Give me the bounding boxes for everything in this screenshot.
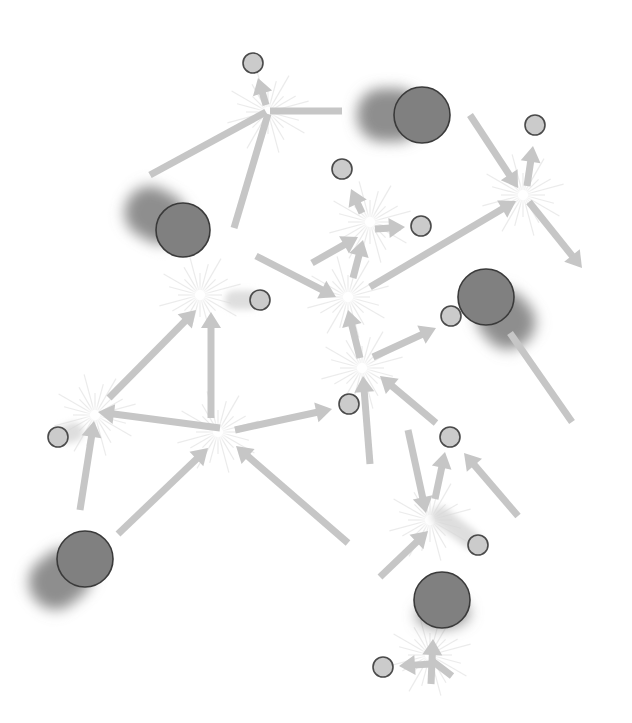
arrow-icon bbox=[470, 115, 518, 188]
vertex-bursts bbox=[54, 71, 563, 695]
arrow-icon bbox=[312, 236, 358, 263]
track-line bbox=[234, 114, 268, 228]
arrow-icon bbox=[235, 403, 332, 430]
diagram-canvas bbox=[0, 0, 632, 723]
arrow-icon bbox=[373, 326, 436, 357]
arrow-icon bbox=[109, 310, 196, 398]
track-line bbox=[150, 112, 266, 175]
arrow-icon bbox=[256, 256, 336, 299]
arrow-icon bbox=[380, 531, 428, 577]
small-particle-icon bbox=[48, 427, 68, 447]
small-particle-icon bbox=[332, 159, 352, 179]
arrow-icon bbox=[80, 421, 101, 510]
small-particle-icon bbox=[440, 427, 460, 447]
small-particle-icon bbox=[441, 306, 461, 326]
vertex-burst-icon bbox=[177, 391, 258, 472]
interaction-arrows bbox=[80, 78, 582, 684]
arrow-icon bbox=[408, 430, 432, 513]
small-particle-icon bbox=[525, 115, 545, 135]
arrow-icon bbox=[464, 453, 518, 516]
arrow-icon bbox=[432, 452, 452, 499]
small-particle-icon bbox=[250, 290, 270, 310]
large-particle-icon bbox=[156, 203, 210, 257]
arrow-icon bbox=[236, 446, 348, 543]
large-particle-icon bbox=[57, 531, 113, 587]
vertex-burst-icon bbox=[329, 181, 410, 262]
small-particle-icon bbox=[339, 394, 359, 414]
large-particle-icon bbox=[458, 269, 514, 325]
small-particle-icon bbox=[411, 216, 431, 236]
particle-network-diagram bbox=[0, 0, 632, 723]
arrow-icon bbox=[118, 448, 208, 534]
small-particle-icon bbox=[468, 535, 488, 555]
arrow-icon bbox=[380, 376, 436, 423]
small-particle-icon bbox=[243, 53, 263, 73]
particles bbox=[48, 53, 545, 677]
arrow-icon bbox=[98, 404, 220, 428]
track-line bbox=[510, 333, 572, 422]
large-particle-icon bbox=[414, 572, 470, 628]
arrow-icon bbox=[354, 376, 374, 464]
large-particle-icon bbox=[394, 87, 450, 143]
vertex-burst-icon bbox=[482, 154, 563, 235]
small-particle-icon bbox=[373, 657, 393, 677]
arrow-icon bbox=[201, 312, 221, 418]
arrow-icon bbox=[529, 202, 582, 268]
